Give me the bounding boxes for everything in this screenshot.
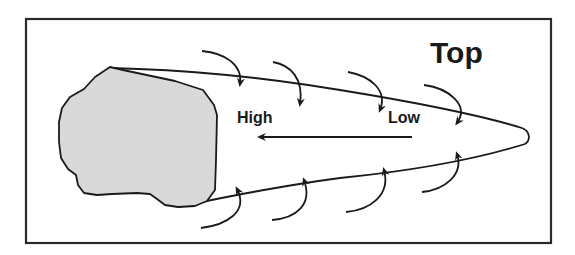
bottom-flow-arrows — [201, 154, 458, 228]
wake-outline-bottom — [178, 144, 525, 207]
obstacle-rock — [59, 67, 217, 207]
flow-arrow-top-1 — [202, 51, 240, 84]
diagram-title: Top — [430, 38, 483, 68]
flow-arrow-top-4 — [424, 85, 461, 123]
flow-diagram — [0, 0, 575, 255]
low-pressure-label: Low — [388, 110, 420, 126]
flow-arrow-top-3 — [348, 72, 382, 110]
flow-arrow-bottom-4 — [422, 154, 458, 192]
high-pressure-label: High — [237, 110, 273, 126]
